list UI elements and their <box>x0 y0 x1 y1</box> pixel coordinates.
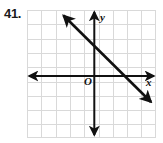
graph-svg: y x O <box>27 10 156 138</box>
y-axis-label: y <box>98 11 105 23</box>
problem-figure-screenshot: 41. <box>0 0 163 143</box>
coordinate-graph: y x O <box>27 10 156 138</box>
plot-background <box>27 10 156 138</box>
problem-number-label: 41. <box>4 7 21 21</box>
x-axis-label: x <box>145 76 152 88</box>
origin-label: O <box>84 75 92 87</box>
